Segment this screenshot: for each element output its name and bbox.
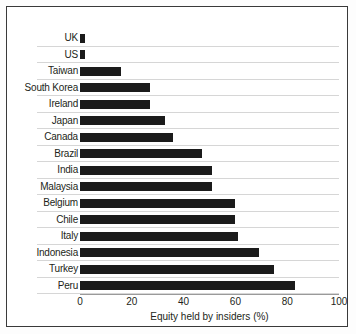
bar-row: Turkey [15,261,353,278]
bar-track [80,113,339,130]
bar [80,248,259,257]
category-label: Canada [15,129,78,146]
bar-track [80,228,339,245]
category-label: Taiwan [15,63,78,80]
category-label: US [15,47,78,64]
bar-row: Malaysia [15,179,353,196]
bar-row: India [15,162,353,179]
x-tick-label: 0 [77,296,83,307]
bar-row: South Korea [15,80,353,97]
bar-track [80,96,339,113]
bar-row: Indonesia [15,245,353,262]
bar [80,182,212,191]
x-tick-label: 60 [230,296,241,307]
bar-track [80,212,339,229]
x-tick-label: 20 [126,296,137,307]
chart-figure: UKUSTaiwanSouth KoreaIrelandJapanCanadaB… [0,0,356,334]
bar-row: Italy [15,228,353,245]
category-label: UK [15,30,78,47]
bar-track [80,278,339,295]
category-label: South Korea [15,80,78,97]
x-axis-title: Equity held by insiders (%) [80,311,339,322]
bar-track [80,30,339,47]
category-label: Malaysia [15,179,78,196]
category-label: Turkey [15,261,78,278]
category-label: Belgium [15,195,78,212]
bar-track [80,129,339,146]
bar [80,215,235,224]
bar [80,100,150,109]
x-axis-line [80,294,339,295]
bar [80,83,150,92]
bar-track [80,245,339,262]
bar-row: Belgium [15,195,353,212]
x-axis-ticks: 020406080100 [80,296,339,310]
category-label: Brazil [15,146,78,163]
bar [80,149,202,158]
chart-frame: UKUSTaiwanSouth KoreaIrelandJapanCanadaB… [6,6,348,327]
category-label: Peru [15,278,78,295]
bar-rows: UKUSTaiwanSouth KoreaIrelandJapanCanadaB… [15,30,353,294]
bar [80,50,85,59]
category-label: Ireland [15,96,78,113]
bar [80,199,235,208]
x-tick-label: 80 [282,296,293,307]
bar [80,133,173,142]
bar [80,166,212,175]
bar-row: Japan [15,113,353,130]
bar [80,265,274,274]
category-label: Italy [15,228,78,245]
bar-track [80,146,339,163]
bar-track [80,80,339,97]
plot-area: UKUSTaiwanSouth KoreaIrelandJapanCanadaB… [15,15,353,332]
bar-track [80,63,339,80]
bar-track [80,195,339,212]
bar-row: UK [15,30,353,47]
bar [80,232,238,241]
bar-row: Brazil [15,146,353,163]
category-label: Indonesia [15,245,78,262]
bar-track [80,162,339,179]
bar-row: Taiwan [15,63,353,80]
bar-track [80,179,339,196]
bar [80,34,85,43]
x-tick-label: 40 [178,296,189,307]
category-label: India [15,162,78,179]
bar-row: US [15,47,353,64]
x-tick-label: 100 [331,296,348,307]
bar [80,281,295,290]
category-label: Japan [15,113,78,130]
bar [80,116,165,125]
bar-track [80,261,339,278]
bar-track [80,47,339,64]
category-label: Chile [15,212,78,229]
bar-row: Chile [15,212,353,229]
bar-row: Peru [15,278,353,295]
bar-row: Ireland [15,96,353,113]
bar [80,67,121,76]
bar-row: Canada [15,129,353,146]
